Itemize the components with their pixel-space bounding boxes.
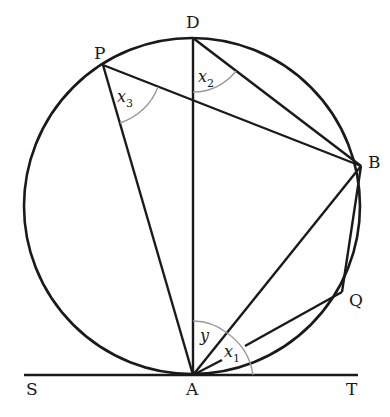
label-q: Q [349, 290, 363, 310]
chord-pb [103, 65, 361, 166]
chord-db [193, 38, 361, 166]
svg-text:x: x [198, 67, 207, 86]
svg-text:3: 3 [126, 97, 133, 110]
angle-label-x3: x 3 [117, 87, 133, 110]
angle-arc-ya [193, 321, 227, 333]
svg-text:2: 2 [207, 77, 214, 90]
chord-ab [193, 166, 361, 375]
label-d: D [186, 12, 200, 32]
svg-text:x: x [117, 87, 126, 106]
label-p: P [94, 43, 105, 63]
label-a: A [185, 379, 199, 399]
chord-aq-upper [245, 292, 342, 346]
label-t: T [346, 379, 358, 399]
label-s: S [26, 379, 38, 399]
svg-text:y: y [199, 326, 210, 345]
svg-text:1: 1 [233, 352, 240, 365]
angle-label-x1: x 1 [224, 342, 240, 365]
svg-text:x: x [224, 342, 233, 361]
angle-label-x2: x 2 [198, 67, 214, 90]
geometry-diagram: D P B Q A S T x 2 x 3 y x 1 [0, 0, 390, 417]
label-b: B [368, 152, 381, 172]
chord-pa [103, 65, 193, 375]
angle-label-y: y [199, 326, 210, 345]
